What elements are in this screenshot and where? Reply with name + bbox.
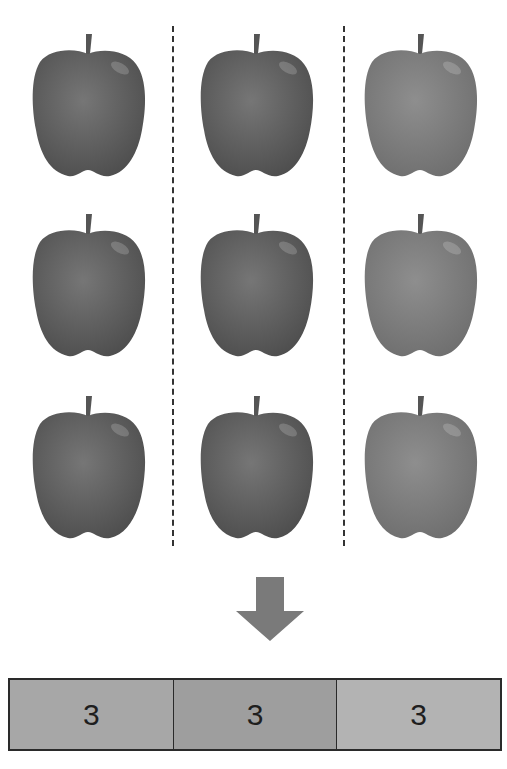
apple-icon	[360, 392, 480, 542]
apple-icon	[196, 30, 316, 180]
apple-icon	[360, 30, 480, 180]
apple-icon	[28, 30, 148, 180]
apple-icon	[28, 392, 148, 542]
apple-icon	[196, 392, 316, 542]
apple-icon	[196, 210, 316, 360]
result-bar: 3 3 3	[8, 678, 502, 751]
group-cell-3: 3	[337, 680, 500, 749]
apple-icon	[28, 210, 148, 360]
group-cell-1: 3	[10, 680, 174, 749]
divider-left	[172, 26, 174, 546]
group-cell-2: 3	[174, 680, 338, 749]
divider-right	[343, 26, 345, 546]
down-arrow-icon	[234, 577, 306, 643]
apple-icon	[360, 210, 480, 360]
